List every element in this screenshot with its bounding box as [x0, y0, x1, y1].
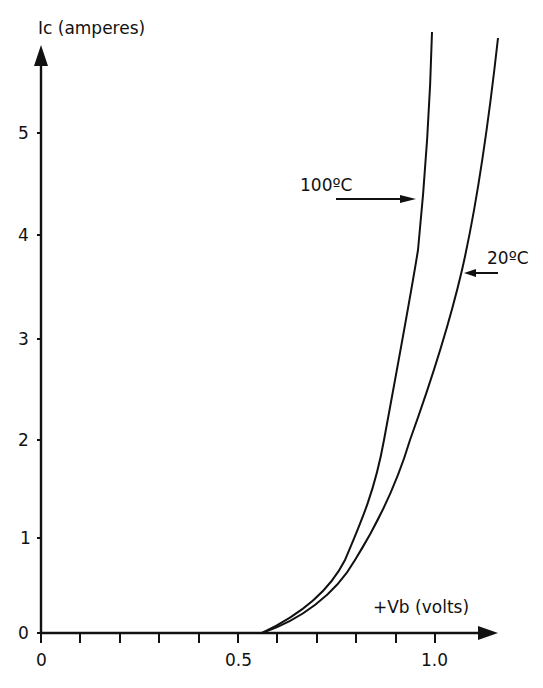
y-axis-arrow-icon — [34, 45, 48, 66]
transistor-characteristic-chart: 5 4 3 2 1 0 0 0.5 1.0 Ic (amperes) +Vb (… — [0, 0, 543, 688]
y-tick-4: 4 — [18, 225, 29, 245]
y-tick-2: 2 — [18, 430, 29, 450]
y-tick-1: 1 — [20, 528, 31, 548]
x-axis-arrow-icon — [478, 626, 498, 640]
y-tick-5: 5 — [18, 123, 29, 143]
y-tick-3: 3 — [18, 329, 29, 349]
x-tick-0.5: 0.5 — [225, 650, 252, 670]
curve-20c — [262, 38, 498, 633]
curve-100c — [262, 32, 432, 633]
y-axis-label: Ic (amperes) — [38, 18, 145, 38]
y-tick-0: 0 — [18, 623, 29, 643]
arrow-100c-icon — [336, 195, 416, 203]
arrow-20c-icon — [464, 269, 498, 277]
x-axis-label: +Vb (volts) — [373, 597, 469, 617]
label-20c: 20ºC — [487, 248, 529, 268]
x-tick-0: 0 — [36, 650, 47, 670]
x-tick-1.0: 1.0 — [421, 650, 448, 670]
label-100c: 100ºC — [300, 175, 352, 195]
y-axis — [34, 45, 48, 633]
